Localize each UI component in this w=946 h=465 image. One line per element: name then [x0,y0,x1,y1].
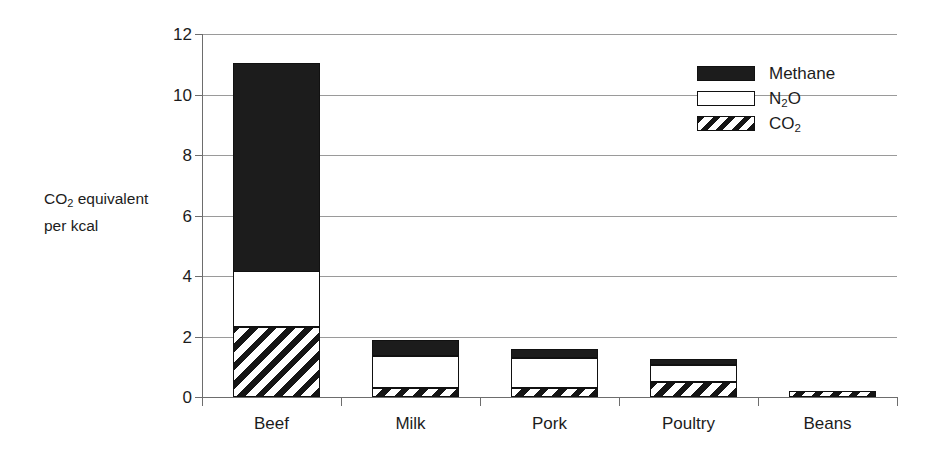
bar-segment-beans-co2[interactable] [789,391,876,397]
y-axis-title-equivalent: equivalent [73,190,148,207]
x-tick-3 [619,397,620,406]
y-axis-title-line-2: per kcal [44,213,194,239]
x-tick-0 [202,397,203,406]
bar-segment-beef-methane[interactable] [233,63,320,272]
gridline-0-baseline [202,397,897,398]
x-tick-4 [758,397,759,406]
bar-segment-milk-n2o[interactable] [372,356,459,388]
x-axis-label-milk: Milk [341,414,481,434]
bar-group-poultry[interactable] [650,359,737,397]
y-axis-title-co: CO [44,190,67,207]
x-tick-1 [341,397,342,406]
y-tick-0 [195,397,202,398]
legend-label-methane-text: Methane [769,64,835,83]
methane-swatch-icon [697,66,755,81]
legend-label-co2-subscript: 2 [795,122,801,134]
legend-row-methane[interactable]: Methane [697,62,937,87]
bar-group-milk[interactable] [372,340,459,398]
bar-segment-pork-methane[interactable] [511,349,598,358]
y-axis-title-subscript: 2 [67,197,73,209]
x-axis-label-beans: Beans [758,414,898,434]
legend-label-n2o: N2O [769,87,801,112]
y-tick-2 [195,337,202,338]
y-tick-10 [195,95,202,96]
legend-label-n2o-subscript: 2 [781,97,787,109]
legend-label-n2o-text: N [769,89,781,108]
y-axis-label-2: 2 [158,329,192,346]
y-tick-12 [195,34,202,35]
y-axis-label-0: 0 [158,389,192,406]
bar-group-beans[interactable] [789,391,876,397]
bar-segment-pork-n2o[interactable] [511,358,598,388]
n2o-swatch-icon [697,91,755,106]
y-tick-4 [195,276,202,277]
chart-legend: Methane N2O CO2 [697,62,937,137]
bar-group-pork[interactable] [511,349,598,397]
co2-swatch-icon [697,116,755,131]
y-axis-title-line-1: CO2 equivalent [44,186,194,213]
y-axis-title: CO2 equivalent per kcal [44,186,194,239]
legend-label-n2o-tail: O [788,89,801,108]
legend-label-co2: CO2 [769,112,801,137]
legend-row-n2o[interactable]: N2O [697,87,937,112]
legend-label-methane: Methane [769,62,835,86]
legend-row-co2[interactable]: CO2 [697,112,937,137]
y-tick-8 [195,155,202,156]
x-tick-5 [897,397,898,406]
bar-segment-pork-co2[interactable] [511,388,598,397]
x-tick-2 [480,397,481,406]
gridline-12 [202,34,897,35]
bar-segment-milk-co2[interactable] [372,388,459,397]
bar-segment-poultry-n2o[interactable] [650,365,737,382]
legend-label-co2-text: CO [769,114,795,133]
bar-segment-beef-n2o[interactable] [233,271,320,327]
y-axis-label-10: 10 [158,87,192,104]
x-axis-label-pork: Pork [480,414,620,434]
bar-segment-poultry-co2[interactable] [650,382,737,397]
x-axis-label-poultry: Poultry [619,414,759,434]
y-axis-label-4: 4 [158,268,192,285]
x-axis-label-beef: Beef [202,414,342,434]
y-axis-label-8: 8 [158,147,192,164]
bar-segment-beef-co2[interactable] [233,327,320,397]
bar-group-beef[interactable] [233,63,320,397]
y-axis-line [202,34,203,398]
y-axis-label-12: 12 [158,26,192,43]
stacked-bar-chart: 12 10 8 6 4 2 0 CO2 equivalent per kcal … [0,0,946,465]
y-tick-6 [195,216,202,217]
bar-segment-milk-methane[interactable] [372,340,459,357]
